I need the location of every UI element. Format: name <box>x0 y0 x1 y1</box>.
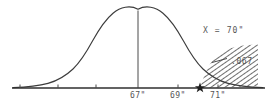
axis-tick-label-71: 71" <box>210 91 226 100</box>
normal-distribution-figure: X = 70" .067 67" 69" 71" <box>0 0 270 110</box>
tail-area-annotation: .067 <box>231 57 253 66</box>
axis-tick-label-67: 67" <box>130 91 146 100</box>
axis-tick-label-69: 69" <box>170 91 186 100</box>
mean-annotation: X = 70" <box>203 26 244 35</box>
shaded-tail-region <box>200 45 258 89</box>
